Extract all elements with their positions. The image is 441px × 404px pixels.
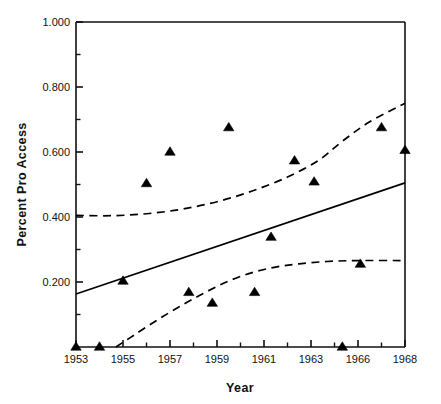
x-tick-label: 1963 bbox=[299, 353, 323, 365]
x-tick-label: 1959 bbox=[205, 353, 229, 365]
y-tick-label: 0.600 bbox=[42, 146, 70, 158]
x-tick-label: 1968 bbox=[393, 353, 417, 365]
x-tick-label: 1966 bbox=[346, 353, 370, 365]
y-tick-label: 0.200 bbox=[42, 276, 70, 288]
y-tick-label: 0.800 bbox=[42, 81, 70, 93]
x-tick-label: 1957 bbox=[158, 353, 182, 365]
x-tick-label: 1953 bbox=[64, 353, 88, 365]
y-tick-label: 1.000 bbox=[42, 16, 70, 28]
figure-background bbox=[0, 0, 441, 404]
y-tick-label: 0.400 bbox=[42, 211, 70, 223]
scatter-plot-figure: 0.2000.4000.6000.8001.000 19531955195719… bbox=[0, 0, 441, 404]
y-axis-title: Percent Pro Access bbox=[15, 122, 29, 246]
x-axis-title: Year bbox=[226, 381, 254, 395]
x-tick-label: 1961 bbox=[252, 353, 276, 365]
x-tick-label: 1955 bbox=[111, 353, 135, 365]
